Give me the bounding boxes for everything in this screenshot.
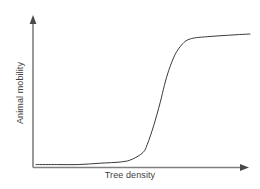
plot-area bbox=[0, 0, 260, 189]
data-curve-sigmoid bbox=[36, 34, 250, 165]
y-axis-label: Animal mobility bbox=[15, 62, 26, 124]
y-axis-arrow-icon bbox=[30, 15, 37, 24]
figure-container: Tree density Animal mobility bbox=[0, 0, 260, 189]
x-axis-label: Tree density bbox=[0, 170, 260, 181]
